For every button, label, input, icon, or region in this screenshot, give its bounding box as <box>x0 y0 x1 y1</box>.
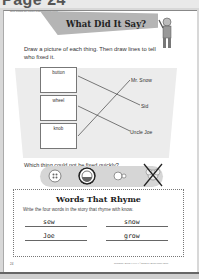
person-sid: Sid <box>141 103 148 109</box>
page-number: 24 <box>10 262 13 266</box>
person-mr-snow: Mr. Snow <box>131 77 152 83</box>
rhyme-section: Words That Rhyme Write the four words in… <box>13 189 184 257</box>
wheel-icon[interactable] <box>78 167 96 185</box>
answer-field-3[interactable]: Joe <box>25 232 87 241</box>
answer-field-4[interactable]: grow <box>106 232 168 241</box>
person-uncle-joe: Uncle Joe <box>130 129 152 135</box>
rhyme-title: Words That Rhyme <box>14 194 183 204</box>
answer-field-1[interactable]: sew <box>25 218 87 227</box>
bottom-strip <box>0 272 199 279</box>
copyright-credit: Reading • EMC XXXX • ©2003 by Evan-Moor … <box>114 262 169 265</box>
flower-icon[interactable] <box>142 162 164 188</box>
knob-icon[interactable] <box>113 171 127 181</box>
button-icon[interactable] <box>48 169 62 183</box>
answer-field-2[interactable]: snow <box>106 218 168 227</box>
rhyme-instructions: Write the four words in the story that r… <box>23 207 133 212</box>
